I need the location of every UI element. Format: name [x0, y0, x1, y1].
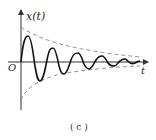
t-axis-label: t	[141, 65, 146, 76]
origin-label: O	[8, 62, 16, 73]
damped-oscillation-diagram: x(t) O t ( c )	[0, 0, 156, 140]
oscillation-curve	[21, 36, 140, 81]
y-axis-label: x(t)	[26, 10, 45, 23]
figure-caption: ( c )	[70, 122, 88, 132]
lower-envelope	[21, 66, 140, 100]
upper-envelope	[21, 27, 140, 57]
